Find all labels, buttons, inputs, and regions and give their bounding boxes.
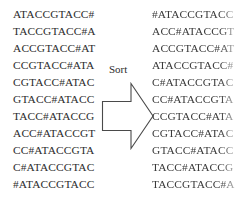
unsorted-rotations-column: ATACCGTACC# TACCGTACC#A ACCGTACC#AT CCGT…: [13, 6, 96, 193]
list-item: ACC#ATACCGT: [13, 125, 96, 142]
list-item: #ATACCGTACC: [152, 6, 235, 23]
list-item: CGTACC#ATAC: [152, 125, 235, 142]
list-item: C#ATACCGTAC: [13, 159, 96, 176]
list-item: ATACCGTACC#: [13, 6, 96, 23]
block-arrow-right-icon: [101, 81, 155, 151]
bwt-rotation-diagram: ATACCGTACC# TACCGTACC#A ACCGTACC#AT CCGT…: [0, 0, 237, 207]
sort-operation-label: Sort: [109, 62, 127, 76]
list-item: CCGTACC#ATA: [13, 57, 96, 74]
list-item: CCGTACC#ATA: [152, 108, 235, 125]
list-item: TACCGTACC#A: [152, 176, 235, 193]
list-item: C#ATACCGTAC: [152, 74, 235, 91]
list-item: #ATACCGTACC: [13, 176, 96, 193]
list-item: ATACCGTACC#: [152, 57, 235, 74]
list-item: TACCGTACC#A: [13, 23, 96, 40]
sorted-rotations-column: #ATACCGTACC ACC#ATACCGT ACCGTACC#AT ATAC…: [152, 6, 235, 193]
list-item: ACCGTACC#AT: [13, 40, 96, 57]
list-item: ACC#ATACCGT: [152, 23, 235, 40]
list-item: CGTACC#ATAC: [13, 74, 96, 91]
list-item: CC#ATACCGTA: [13, 142, 96, 159]
list-item: TACC#ATACCG: [152, 159, 235, 176]
list-item: ACCGTACC#AT: [152, 40, 235, 57]
list-item: TACC#ATACCG: [13, 108, 96, 125]
list-item: GTACC#ATACC: [152, 142, 235, 159]
list-item: GTACC#ATACC: [13, 91, 96, 108]
list-item: CC#ATACCGTA: [152, 91, 235, 108]
